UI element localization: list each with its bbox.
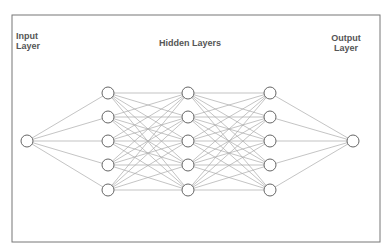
- output-layer-label-line2: Layer: [329, 43, 363, 53]
- hidden-3-node: [264, 111, 276, 123]
- output-layer-label-line1: Output: [329, 33, 363, 43]
- output-layer-label: Output Layer: [329, 33, 363, 53]
- input-layer-label: Input Layer: [16, 31, 40, 51]
- input-layer-label-line2: Layer: [16, 41, 40, 51]
- hidden-3-node: [264, 184, 276, 196]
- input-node: [21, 135, 33, 147]
- connection-line: [270, 117, 353, 141]
- hidden-1-node: [102, 135, 114, 147]
- hidden-2-node: [182, 111, 194, 123]
- hidden-3-node: [264, 135, 276, 147]
- connection-line: [270, 141, 353, 165]
- hidden-layers-label: Hidden Layers: [159, 38, 221, 48]
- connection-line: [270, 141, 353, 190]
- hidden-1-node: [102, 87, 114, 99]
- hidden-1-node: [102, 159, 114, 171]
- hidden-2-node: [182, 159, 194, 171]
- hidden-2-node: [182, 135, 194, 147]
- connection-line: [270, 93, 353, 141]
- hidden-2-node: [182, 87, 194, 99]
- hidden-2-node: [182, 184, 194, 196]
- hidden-1-node: [102, 111, 114, 123]
- hidden-3-node: [264, 87, 276, 99]
- hidden-1-node: [102, 184, 114, 196]
- diagram-frame: [12, 15, 380, 242]
- connection-line: [27, 141, 108, 165]
- output-node: [347, 135, 359, 147]
- neurons: [21, 87, 359, 196]
- connection-line: [27, 93, 108, 141]
- input-layer-label-line1: Input: [16, 31, 40, 41]
- connection-line: [27, 141, 108, 190]
- connection-line: [27, 117, 108, 141]
- hidden-3-node: [264, 159, 276, 171]
